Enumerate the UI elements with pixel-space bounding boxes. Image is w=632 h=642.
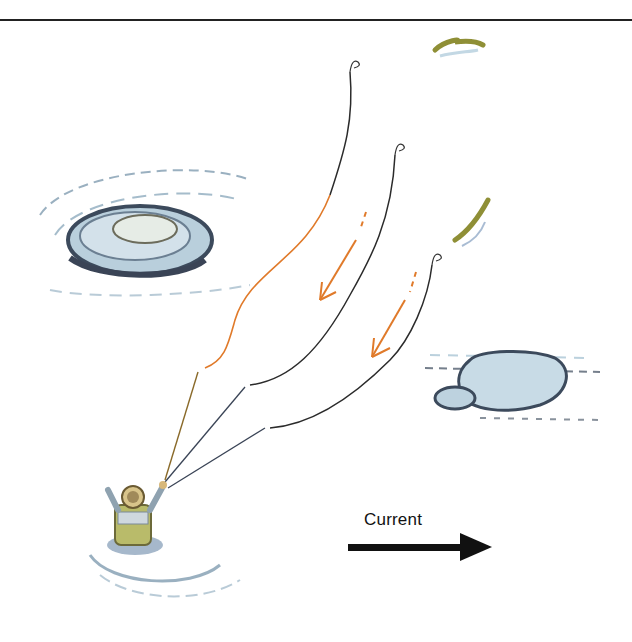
line-3 [168,254,441,488]
rock-right [425,351,600,420]
illustration [0,0,632,642]
fish-top [435,40,483,56]
fish-middle [455,200,488,246]
line-1 [165,61,359,480]
mend-arrow-2 [372,272,416,357]
current-arrow [348,533,492,561]
angler [90,481,240,596]
mend-arrow-1 [320,212,366,300]
rock-left [40,170,250,295]
current-label: Current [364,510,422,530]
